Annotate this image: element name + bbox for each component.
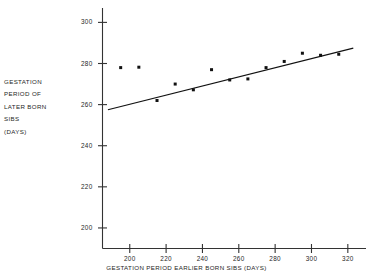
- tick-marks-group: [98, 22, 348, 253]
- x-tick-label: 300: [299, 255, 323, 262]
- data-point: [283, 60, 286, 63]
- data-point: [174, 83, 177, 86]
- data-point: [156, 99, 159, 102]
- x-tick-label: 280: [263, 255, 287, 262]
- axes-group: [103, 8, 367, 249]
- y-tick-label: 240: [69, 142, 93, 149]
- y-tick-label: 220: [69, 183, 93, 190]
- data-point: [319, 54, 322, 57]
- data-point: [337, 53, 340, 56]
- data-point: [137, 66, 140, 69]
- scatter-chart-figure: GESTATION PERIOD OF LATER BORN SIBS (DAY…: [0, 0, 373, 278]
- data-point: [301, 52, 304, 55]
- y-tick-label: 260: [69, 101, 93, 108]
- y-tick-label: 280: [69, 60, 93, 67]
- data-point: [192, 88, 195, 91]
- x-tick-label: 320: [336, 255, 360, 262]
- data-point: [228, 78, 231, 81]
- x-axis-label: GESTATION PERIOD EARLIER BORN SIBS (DAYS…: [0, 264, 373, 271]
- data-point: [119, 66, 122, 69]
- y-tick-label: 300: [69, 18, 93, 25]
- x-tick-label: 200: [118, 255, 142, 262]
- plot-area: [0, 0, 373, 278]
- x-tick-label: 220: [154, 255, 178, 262]
- data-point: [246, 77, 249, 80]
- data-point: [265, 66, 268, 69]
- y-tick-label: 200: [69, 224, 93, 231]
- data-point: [210, 68, 213, 71]
- x-tick-label: 240: [190, 255, 214, 262]
- x-tick-label: 260: [227, 255, 251, 262]
